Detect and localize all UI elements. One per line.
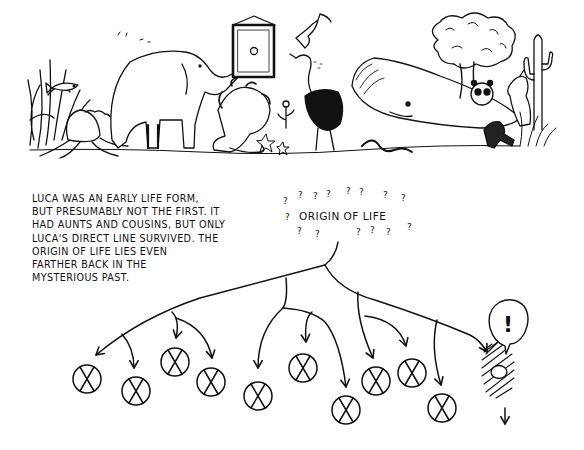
luca-surviving-lineage: ! (482, 300, 528, 424)
extinct-lineage-circle (428, 394, 456, 422)
monkey-icon (484, 122, 514, 148)
ground-line (30, 146, 520, 154)
branch-to-extinct-3 (172, 312, 177, 338)
whale-icon (352, 58, 520, 128)
extinct-lineage-circle (244, 382, 272, 410)
framed-picture-icon (233, 16, 275, 77)
right-branch (358, 292, 373, 358)
bird-icon (296, 14, 331, 68)
extinct-lineage-circle (398, 359, 426, 387)
panda-icon (471, 81, 493, 106)
extinct-lineage-circle (73, 365, 101, 393)
ostrich-icon (290, 54, 343, 150)
flower-icon (278, 101, 294, 128)
right-sub-branch (365, 316, 406, 346)
extinct-lineage-circle (197, 368, 225, 396)
branch-to-extinct-6 (306, 312, 312, 342)
exclamation-mark-icon: ! (503, 312, 513, 337)
right-main-branch (325, 265, 487, 352)
luca-cell (491, 366, 507, 379)
left-main-branch (96, 265, 325, 355)
trunk-branch (325, 242, 338, 265)
snake-icon (362, 140, 412, 152)
middle-branch (258, 278, 287, 368)
extinct-lineages (73, 348, 456, 424)
branch-to-extinct-12 (434, 320, 441, 385)
branch-to-extinct-2 (122, 334, 134, 368)
extinct-lineage-circle (362, 367, 390, 395)
animal-scene-illustration (0, 0, 584, 165)
extinct-lineage-circle (161, 348, 189, 376)
extinct-lineage-circle (122, 377, 150, 405)
tree-of-life-diagram: ! (0, 165, 584, 450)
extinct-lineage-circle (332, 396, 360, 424)
extinct-lineage-circle (289, 354, 317, 382)
